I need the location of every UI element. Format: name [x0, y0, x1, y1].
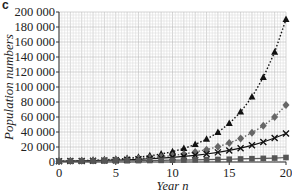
triangle-marker: [203, 135, 210, 142]
y-tick-label: 80 000: [21, 95, 55, 109]
y-tick-label: 40 000: [21, 125, 55, 139]
diamond-marker: [248, 129, 255, 137]
square-marker: [272, 155, 278, 161]
square-marker: [124, 158, 130, 164]
x-tick-label: 5: [113, 166, 119, 180]
y-tick-label: 200 000: [14, 5, 55, 19]
y-tick-label: 20 000: [21, 140, 55, 154]
square-marker: [192, 157, 198, 163]
square-marker: [102, 158, 108, 164]
square-marker: [113, 158, 119, 164]
y-tick-label: 160 000: [14, 35, 55, 49]
y-tick-label: 140 000: [14, 50, 55, 64]
square-marker: [215, 157, 221, 163]
x-tick-label: 10: [166, 166, 179, 180]
square-marker: [147, 158, 153, 164]
square-marker: [170, 157, 176, 163]
y-axis-label: Population numbers: [1, 34, 16, 141]
square-marker: [158, 158, 164, 164]
y-tick-label: 0: [49, 155, 55, 169]
square-marker: [283, 155, 289, 161]
square-marker: [79, 158, 85, 164]
diamond-marker: [226, 139, 233, 147]
square-marker: [68, 158, 74, 164]
square-marker: [136, 158, 142, 164]
square-marker: [238, 156, 244, 162]
square-marker: [56, 158, 62, 164]
y-tick-label: 100 000: [14, 80, 55, 94]
square-marker: [261, 156, 267, 162]
x-axis-label: Year n: [157, 179, 189, 190]
triangle-marker: [283, 16, 290, 23]
square-marker: [226, 156, 232, 162]
square-marker: [249, 156, 255, 162]
square-marker: [90, 158, 96, 164]
triangle-marker: [260, 73, 267, 80]
y-tick-label: 180 000: [14, 20, 55, 34]
y-tick-label: 120 000: [14, 65, 55, 79]
triangle-marker: [214, 128, 221, 135]
x-tick-label: 15: [223, 166, 236, 180]
x-tick-label: 20: [280, 166, 292, 180]
square-marker: [204, 157, 210, 163]
triangle-marker: [271, 48, 278, 55]
x-tick-label: 0: [56, 166, 62, 180]
population-chart: 020 00040 00060 00080 000100 000120 0001…: [0, 0, 292, 190]
grid: [59, 12, 286, 162]
square-marker: [181, 157, 187, 163]
y-tick-label: 60 000: [21, 110, 55, 124]
